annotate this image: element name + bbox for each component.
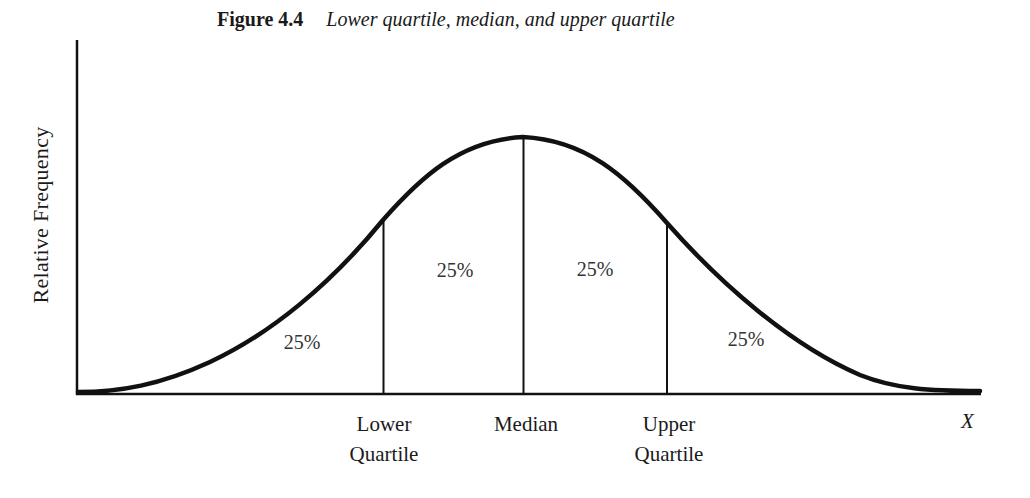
x-axis-label: X [961,409,974,434]
upper-quartile-label: Upper Quartile [635,409,704,469]
region-label-2: 25% [437,259,474,282]
region-label-4: 25% [728,328,765,351]
region-label-1: 25% [284,331,321,354]
upper-quartile-label-line1: Upper [635,409,704,439]
lower-quartile-label-line1: Lower [350,409,419,439]
upper-quartile-label-line2: Quartile [635,439,704,469]
median-label-line1: Median [494,409,558,439]
lower-quartile-label: Lower Quartile [350,409,419,469]
bell-curve [78,137,980,392]
region-label-3: 25% [577,258,614,281]
median-label: Median [494,409,558,439]
lower-quartile-label-line2: Quartile [350,439,419,469]
